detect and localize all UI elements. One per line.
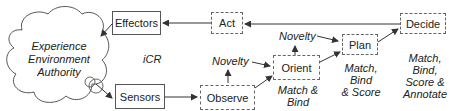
- decide-description: Match, Bind, Score & Annotate: [399, 52, 451, 100]
- orient-description: Match & Bind: [276, 84, 320, 108]
- orient-box: Orient: [273, 55, 320, 80]
- plan-description: Match, Bind & Score: [337, 62, 385, 98]
- icr-label: iCR: [143, 53, 161, 65]
- effectors-box: Effectors: [112, 11, 161, 35]
- decide-box: Decide: [400, 13, 446, 34]
- novelty-orient-label: Novelty: [279, 30, 316, 42]
- cloud-line-1: Experience: [20, 40, 98, 53]
- cloud-label: Experience Environment Authority: [20, 40, 98, 79]
- sensors-box: Sensors: [115, 84, 165, 109]
- act-box: Act: [211, 12, 243, 34]
- cloud-line-3: Authority: [20, 66, 98, 79]
- novelty-observe-label: Novelty: [212, 55, 249, 67]
- plan-box: Plan: [342, 34, 378, 55]
- observe-box: Observe: [200, 85, 255, 110]
- cloud-line-2: Environment: [20, 53, 98, 66]
